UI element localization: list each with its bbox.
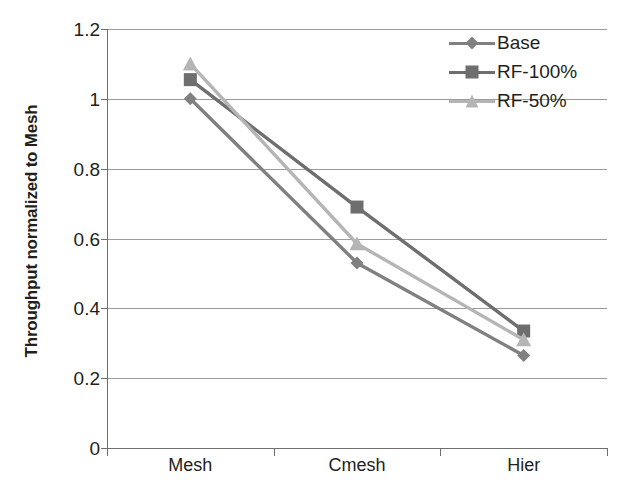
series-line: [190, 99, 523, 356]
legend-swatch-rf-50: [449, 91, 495, 111]
series-base: [184, 92, 530, 362]
line-chart: Throughput normalized to Mesh 1.210.80.6…: [0, 0, 641, 491]
triangle-marker-icon: [465, 94, 479, 108]
chart-legend: Base RF-100% RF-50%: [449, 28, 577, 115]
legend-swatch-base: [449, 33, 495, 53]
square-marker-icon: [184, 73, 197, 86]
legend-label-rf-100: RF-100%: [495, 62, 577, 81]
x-axis-tick-label: Hier: [444, 456, 604, 474]
square-marker-icon: [465, 65, 479, 79]
square-marker-icon: [351, 201, 364, 214]
triangle-marker-icon: [183, 56, 198, 70]
legend-swatch-rf-100: [449, 62, 495, 82]
legend-label-base: Base: [495, 33, 540, 52]
legend-item-rf-100[interactable]: RF-100%: [449, 57, 577, 86]
x-axis-tick-label: Cmesh: [277, 456, 437, 474]
legend-label-rf-50: RF-50%: [495, 91, 567, 110]
diamond-marker-icon: [517, 349, 530, 362]
legend-item-rf-50[interactable]: RF-50%: [449, 86, 577, 115]
legend-item-base[interactable]: Base: [449, 28, 577, 57]
x-axis-tick-label: Mesh: [110, 456, 270, 474]
diamond-marker-icon: [465, 36, 479, 50]
